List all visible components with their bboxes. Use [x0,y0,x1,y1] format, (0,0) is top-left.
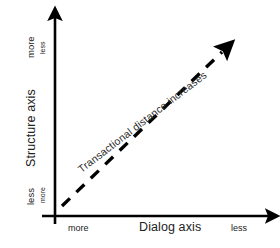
x-axis-left-label: more [68,224,89,233]
y-axis-top-secondary-label: less [39,42,46,54]
diagram-canvas: more less Structure axis less more more … [0,0,280,248]
x-axis-right-label: less [231,224,247,233]
y-axis-top-primary-label: more [26,36,36,58]
y-axis-title: Structure axis [25,89,38,167]
y-axis-bottom-primary-label: less [26,188,36,205]
x-axis-title: Dialog axis [139,221,201,234]
y-axis-bottom-secondary-label: more [39,187,46,203]
